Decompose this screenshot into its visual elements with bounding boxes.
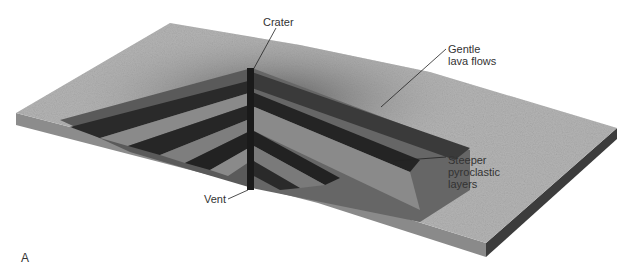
crater-label: Crater: [263, 16, 294, 28]
vent-label: Vent: [204, 193, 226, 205]
gentle-lava-flows-label: Gentle lava flows: [448, 43, 496, 67]
volcano-diagram: Crater Gentle lava flows Steeper pyrocla…: [0, 0, 634, 275]
composite-volcano-illustration: [0, 0, 634, 275]
vent-leader-line: [228, 190, 248, 199]
panel-label: A: [21, 251, 29, 265]
vent-conduit: [247, 68, 254, 190]
steeper-pyroclastic-layers-label: Steeper pyroclastic layers: [448, 154, 500, 190]
